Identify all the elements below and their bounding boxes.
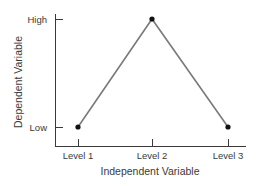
data-point-level-1 [75, 124, 80, 129]
x-tick-label-level-1: Level 1 [63, 150, 94, 161]
x-axis-title: Independent Variable [100, 165, 199, 177]
x-tick-label-level-3: Level 3 [213, 150, 244, 161]
x-tick-label-level-2: Level 2 [137, 150, 168, 161]
data-point-level-3 [225, 124, 230, 129]
data-point-level-2 [149, 16, 154, 21]
y-tick-label-low: Low [30, 122, 48, 133]
data-line [78, 19, 228, 127]
line-chart: High Low Level 1 Level 2 Level 3 Indepen… [0, 0, 259, 186]
y-axis-title: Dependent Variable [12, 36, 24, 128]
y-tick-label-high: High [27, 14, 47, 25]
axes [55, 14, 246, 147]
